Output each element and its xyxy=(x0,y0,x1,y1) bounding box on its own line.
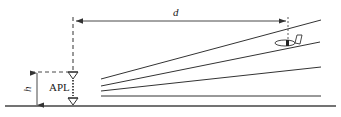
apl-bottom-triangle-icon xyxy=(68,98,78,105)
apl-label: APL xyxy=(49,81,70,93)
distance-label: d xyxy=(173,6,179,18)
apl-top-triangle-icon xyxy=(68,72,78,79)
glide-lines xyxy=(101,20,321,96)
diagram-canvas: d h APL xyxy=(0,0,341,117)
aircraft-icon xyxy=(275,35,302,46)
height-label: h xyxy=(21,86,33,92)
